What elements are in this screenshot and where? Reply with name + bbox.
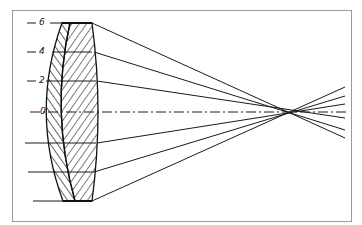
height-label-0: 0 <box>40 107 46 116</box>
lens-ray-diagram <box>0 0 362 225</box>
height-label-2: 2 <box>39 76 45 85</box>
height-label-6: 6 <box>39 18 45 27</box>
height-label-4: 4 <box>39 47 45 56</box>
